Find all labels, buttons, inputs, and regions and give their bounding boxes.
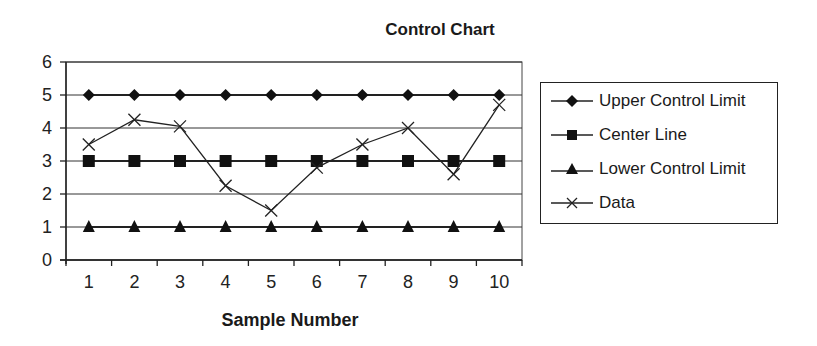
square-marker-icon [448,155,460,167]
legend-item-lcl: Lower Control Limit [549,157,745,181]
diamond-marker-icon [493,89,505,101]
y-tick-label: 3 [42,151,52,171]
triangle-marker-icon [549,159,595,179]
diamond-marker-icon [174,89,186,101]
x-tick-label: 1 [84,272,94,292]
diamond-marker-icon [128,89,140,101]
x-tick-label: 3 [175,272,185,292]
legend-label: Data [599,193,635,213]
x-tick-label: 6 [312,272,322,292]
diamond-marker-icon [549,91,595,111]
diamond-marker-icon [265,89,277,101]
y-tick-label: 0 [42,250,52,270]
x-marker-icon [549,193,595,213]
y-tick-label: 5 [42,85,52,105]
diamond-marker-icon [83,89,95,101]
x-tick-label: 10 [489,272,509,292]
x-tick-label: 9 [449,272,459,292]
diamond-marker-icon [220,89,232,101]
x-tick-label: 8 [403,272,413,292]
square-marker-icon [83,155,95,167]
diamond-marker-icon [448,89,460,101]
y-tick-label: 2 [42,184,52,204]
diamond-marker-icon [356,89,368,101]
y-tick-label: 1 [42,217,52,237]
x-tick-label: 2 [129,272,139,292]
y-tick-label: 6 [42,52,52,72]
square-marker-icon [265,155,277,167]
legend-label: Lower Control Limit [599,159,745,179]
legend-item-center: Center Line [549,123,687,147]
diamond-marker-icon [311,89,323,101]
series-line [89,105,499,211]
x-axis-label: Sample Number [190,310,390,331]
x-tick-label: 7 [357,272,367,292]
legend: Upper Control Limit Center Line Lower Co… [540,82,778,224]
x-tick-label: 4 [221,272,231,292]
square-marker-icon [220,155,232,167]
square-marker-icon [174,155,186,167]
square-marker-icon [128,155,140,167]
legend-item-ucl: Upper Control Limit [549,89,745,113]
square-marker-icon [493,155,505,167]
x-tick-label: 5 [266,272,276,292]
legend-label: Upper Control Limit [599,91,745,111]
square-marker-icon [356,155,368,167]
legend-label: Center Line [599,125,687,145]
legend-item-data: Data [549,191,635,215]
square-marker-icon [549,125,595,145]
diamond-marker-icon [402,89,414,101]
y-tick-label: 4 [42,118,52,138]
square-marker-icon [402,155,414,167]
